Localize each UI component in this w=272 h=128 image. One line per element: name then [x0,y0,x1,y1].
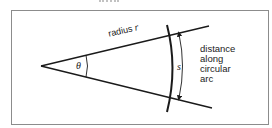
arc-description: distance along circular arc [200,44,235,84]
circular-arc [167,25,173,112]
theta-label: θ [76,60,81,71]
theta-angle-arc [86,55,88,77]
arc-length-label: s [177,61,181,72]
arc-description-line: arc [200,74,235,84]
lower-radius-line [41,66,212,108]
